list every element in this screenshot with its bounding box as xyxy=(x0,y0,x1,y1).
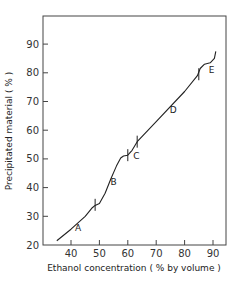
y-tick-label: 80 xyxy=(26,67,39,78)
segment-label-a: A xyxy=(75,223,82,233)
y-tick-label: 60 xyxy=(26,125,39,136)
y-axis-title: Precipitated material ( % ) xyxy=(4,72,14,190)
segment-label-e: E xyxy=(209,65,215,75)
plot-frame xyxy=(43,16,226,245)
y-tick-label: 90 xyxy=(26,39,39,50)
segment-label-b: B xyxy=(111,177,117,187)
fraction-boundary-marks xyxy=(95,68,199,211)
x-tick-label: 90 xyxy=(207,248,220,259)
y-tick-label: 40 xyxy=(26,182,39,193)
y-tick-label: 30 xyxy=(26,211,39,222)
segment-label-d: D xyxy=(170,105,177,115)
x-axis-title: Ethanol concentration ( % by volume ) xyxy=(47,263,221,273)
x-tick-label: 80 xyxy=(178,248,191,259)
segment-label-c: C xyxy=(133,151,139,161)
x-tick-label: 40 xyxy=(65,248,78,259)
y-tick-label: 70 xyxy=(26,96,39,107)
x-tick-label: 50 xyxy=(93,248,106,259)
y-tick-label: 50 xyxy=(26,153,39,164)
y-tick-label: 20 xyxy=(26,240,39,251)
precipitation-curve xyxy=(57,51,216,240)
y-axis-ticks: 2030405060708090 xyxy=(26,39,48,251)
precipitation-chart: 2030405060708090 405060708090 ABCDE Etha… xyxy=(0,0,240,289)
x-tick-label: 60 xyxy=(121,248,134,259)
x-axis-ticks: 405060708090 xyxy=(65,240,220,259)
x-tick-label: 70 xyxy=(150,248,163,259)
segment-labels: ABCDE xyxy=(75,65,215,233)
